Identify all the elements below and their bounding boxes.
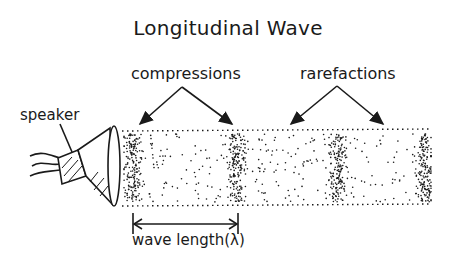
compressions-pointer-arrows: [140, 87, 232, 124]
label-wavelength: wave length(λ): [132, 231, 245, 249]
diagram-title: Longitudinal Wave: [0, 16, 456, 40]
air-tube: [122, 129, 432, 206]
rarefactions-pointer-arrows: [291, 86, 383, 124]
label-rarefactions: rarefactions: [300, 64, 396, 83]
speaker-icon: [30, 124, 120, 206]
label-speaker: speaker: [20, 106, 79, 124]
longitudinal-wave-diagram: Longitudinal Wave compressions rarefacti…: [0, 0, 456, 262]
label-compressions: compressions: [131, 64, 241, 83]
air-particles: [123, 133, 432, 203]
